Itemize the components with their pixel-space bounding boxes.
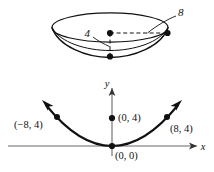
figure-svg: 8 4 (−8, 4) (0, 4)	[0, 0, 214, 172]
point-label-8-4: (8, 4)	[170, 123, 193, 135]
dish-center-point	[107, 30, 113, 36]
figure-root: 8 4 (−8, 4) (0, 4)	[0, 0, 214, 172]
parabolic-dish-diagram: 8 4	[52, 6, 184, 60]
parabola-left-arrowhead	[42, 100, 54, 110]
point-marker-8-4	[164, 114, 170, 120]
dish-depth-label: 4	[85, 27, 91, 39]
x-axis-label: x	[200, 141, 206, 152]
dish-vertex-point	[107, 53, 113, 59]
point-label-0-0: (0, 0)	[115, 150, 138, 162]
point-label-0-4: (0, 4)	[118, 112, 141, 124]
parabola-right-arrowhead	[171, 100, 183, 110]
point-marker-0-4	[109, 115, 115, 121]
parabola-cross-section-graph: (−8, 4) (0, 4) (8, 4) (0, 0) y x	[8, 78, 206, 162]
radius-label-leader	[148, 16, 177, 33]
dish-radius-label: 8	[178, 6, 184, 18]
point-marker-neg8-4	[54, 114, 60, 120]
rim-edge-point	[164, 30, 170, 36]
point-label-neg8-4: (−8, 4)	[14, 119, 43, 131]
point-marker-0-0	[109, 143, 115, 149]
y-axis-label: y	[104, 78, 110, 89]
dish-rim-ellipse	[52, 13, 168, 42]
